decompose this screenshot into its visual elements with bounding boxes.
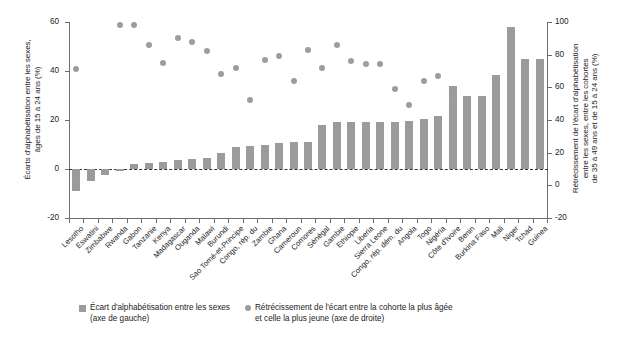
data-point	[377, 61, 383, 67]
data-point	[334, 42, 340, 48]
x-tick-mark	[228, 219, 229, 223]
x-tick-mark	[373, 219, 374, 223]
x-tick-mark	[330, 219, 331, 223]
bar	[159, 162, 167, 169]
x-tick-mark	[489, 219, 490, 223]
x-tick-mark	[388, 219, 389, 223]
data-point	[319, 65, 325, 71]
bar	[333, 122, 341, 169]
data-point	[262, 57, 268, 63]
left-tick-label: -20	[19, 213, 59, 222]
x-tick-mark	[344, 219, 345, 223]
right-tick-label: 40	[555, 115, 595, 124]
x-tick-mark	[504, 219, 505, 223]
bar	[72, 169, 80, 191]
x-tick-mark	[518, 219, 519, 223]
data-point	[276, 53, 282, 59]
left-tick-label: 60	[19, 17, 59, 26]
x-tick-mark	[156, 219, 157, 223]
x-tick-mark	[446, 219, 447, 223]
x-tick-mark	[243, 219, 244, 223]
legend-label-dots: Rétrécissement de l'écart entre la cohor…	[255, 303, 453, 324]
bar	[420, 119, 428, 169]
bar	[174, 160, 182, 169]
data-point	[189, 39, 195, 45]
bar-swatch-icon	[79, 305, 86, 312]
data-point	[247, 97, 253, 103]
data-point	[291, 78, 297, 84]
data-point	[160, 60, 166, 66]
x-tick-mark	[272, 219, 273, 223]
bar	[434, 116, 442, 169]
left-tick-label: 40	[19, 66, 59, 75]
right-tick-mark	[548, 185, 552, 186]
bar	[261, 145, 269, 170]
bar	[290, 142, 298, 169]
bar	[145, 163, 153, 169]
x-tick-mark	[315, 219, 316, 223]
chart-figure: Écarts d'alphabétisation entre les sexes…	[0, 0, 623, 341]
bar	[507, 27, 515, 169]
bar	[275, 143, 283, 169]
x-tick-mark	[185, 219, 186, 223]
x-tick-mark	[460, 219, 461, 223]
legend-item-bars: Écart d'alphabétisation entre les sexes …	[79, 303, 230, 324]
data-point	[117, 22, 123, 28]
bar	[232, 147, 240, 169]
data-point	[421, 78, 427, 84]
bar	[536, 59, 544, 169]
right-tick-mark	[548, 55, 552, 56]
x-tick-mark	[402, 219, 403, 223]
bar	[463, 96, 471, 170]
x-tick-mark	[301, 219, 302, 223]
bar	[203, 158, 211, 169]
bar	[87, 169, 95, 181]
data-point	[233, 65, 239, 71]
data-point	[175, 35, 181, 41]
x-tick-mark	[214, 219, 215, 223]
data-point	[363, 61, 369, 67]
x-tick-mark	[533, 219, 534, 223]
right-tick-label: 0	[555, 180, 595, 189]
bar	[492, 75, 500, 169]
data-point	[146, 42, 152, 48]
left-axis-title: Écarts d'alphabétisation entre les sexes…	[23, 15, 42, 205]
right-tick-label: -20	[555, 213, 595, 222]
right-tick-label: 80	[555, 50, 595, 59]
right-tick-mark	[548, 153, 552, 154]
x-tick-mark	[141, 219, 142, 223]
bar	[116, 169, 124, 171]
right-tick-mark	[548, 120, 552, 121]
x-tick-mark	[547, 219, 548, 223]
legend-item-dots: Rétrécissement de l'écart entre la cohor…	[245, 303, 453, 324]
right-tick-label: 100	[555, 17, 595, 26]
data-point	[131, 22, 137, 28]
data-point	[218, 71, 224, 77]
left-tick-label: 0	[19, 164, 59, 173]
x-tick-mark	[112, 219, 113, 223]
bar	[521, 59, 529, 169]
bar	[362, 122, 370, 169]
bar	[188, 159, 196, 169]
legend-label-bars: Écart d'alphabétisation entre les sexes …	[90, 303, 230, 324]
x-tick-mark	[431, 219, 432, 223]
bar	[130, 164, 138, 169]
x-tick-mark	[83, 219, 84, 223]
right-tick-mark	[548, 87, 552, 88]
bar	[391, 122, 399, 169]
bar	[304, 142, 312, 169]
bar	[101, 169, 109, 175]
bar	[246, 146, 254, 169]
right-tick-label: 60	[555, 82, 595, 91]
right-tick-mark	[548, 22, 552, 23]
x-tick-mark	[127, 219, 128, 223]
data-point	[204, 48, 210, 54]
data-point	[392, 86, 398, 92]
x-tick-mark	[417, 219, 418, 223]
data-point	[435, 73, 441, 79]
x-tick-mark	[257, 219, 258, 223]
x-tick-mark	[286, 219, 287, 223]
data-point	[73, 66, 79, 72]
x-tick-mark	[69, 219, 70, 223]
x-tick-mark	[199, 219, 200, 223]
